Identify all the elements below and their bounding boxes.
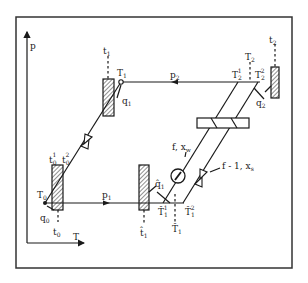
valve-right <box>195 169 207 187</box>
label-T1hat-1: T̂11 <box>158 204 168 218</box>
label-T2-2: T22 <box>255 67 265 81</box>
leader-q2 <box>265 86 271 92</box>
reservoir-t2 <box>271 67 279 98</box>
axes: p T <box>27 32 84 243</box>
point-t1 <box>119 80 123 84</box>
label-T1hat: T̂1 <box>172 223 182 235</box>
label-t0-2: t02 <box>62 151 70 166</box>
leader-f-1 <box>210 168 220 172</box>
label-t1hat: t̂1 <box>140 226 148 239</box>
t-axis-label: T <box>73 232 79 242</box>
label-q1: q1 <box>122 96 132 107</box>
label-p2: p2 <box>170 70 180 81</box>
cycle-diagram: p T p1 p2 <box>0 0 308 283</box>
point-t0 <box>43 201 47 205</box>
label-T1hat-2: T̂12 <box>185 204 195 218</box>
label-t0: t0 <box>53 227 61 238</box>
compression-line <box>45 82 121 203</box>
label-t1: t1 <box>103 46 110 57</box>
flow-arrow-p1 <box>103 201 110 206</box>
label-q1hat: q̂1 <box>155 179 165 190</box>
label-stream-f-1: f - 1, xs <box>222 161 254 172</box>
valve-left <box>81 134 92 149</box>
p-axis-label: p <box>30 41 36 51</box>
label-T2-1: T21 <box>232 67 242 81</box>
label-p1: p1 <box>102 190 112 201</box>
label-q2: q2 <box>256 98 266 109</box>
turbine-icon <box>171 169 185 183</box>
label-t2: t2 <box>269 35 277 46</box>
label-T2: T2 <box>245 52 255 63</box>
label-T0: T0 <box>37 190 47 201</box>
label-T1: T1 <box>117 68 127 79</box>
heat-exchanger-box <box>197 118 249 128</box>
reservoir-t1 <box>103 79 114 116</box>
stream-line-f-minus-1 <box>183 82 258 203</box>
label-stream-f: f, xw <box>172 142 192 153</box>
label-q0: q0 <box>40 213 50 224</box>
label-t0-1: t01 <box>49 151 57 166</box>
